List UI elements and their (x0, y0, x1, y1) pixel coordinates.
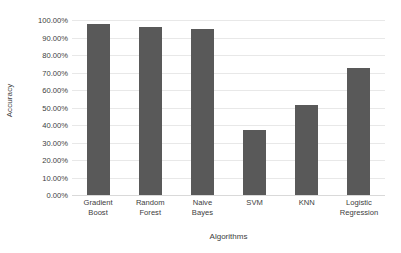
bar-chart: Accuracy 100.00%90.00%80.00%70.00%60.00%… (0, 0, 401, 253)
y-axis-tick-label: 0.00% (46, 191, 68, 200)
bar-slot (281, 20, 333, 195)
bar[interactable] (191, 29, 214, 195)
y-axis-tick-label: 70.00% (42, 68, 68, 77)
x-tick-slot: KNN (281, 198, 333, 230)
plot-area (72, 20, 385, 195)
x-tick-slot: SVM (229, 198, 281, 230)
bar-slot (176, 20, 228, 195)
x-tick-slot: Random Forest (124, 198, 176, 230)
x-axis-tick-label: Random Forest (126, 198, 174, 218)
gridline (72, 195, 385, 196)
x-axis-tick-label: Logistic Regression (335, 198, 383, 218)
x-axis-tick-labels: Gradient BoostRandom ForestNaive BayesSV… (72, 198, 385, 230)
y-axis-tick-label: 100.00% (38, 16, 68, 25)
bar-series (72, 20, 385, 195)
bar-slot (333, 20, 385, 195)
x-axis-tick-label: KNN (283, 198, 331, 208)
x-axis-tick-label: SVM (231, 198, 279, 208)
x-axis-title: Algorithms (72, 232, 385, 241)
bar-slot (72, 20, 124, 195)
x-axis-title-label: Algorithms (210, 232, 248, 241)
y-axis-tick-label: 40.00% (42, 121, 68, 130)
y-axis-tick-label: 90.00% (42, 33, 68, 42)
y-axis-tick-label: 20.00% (42, 156, 68, 165)
bar[interactable] (347, 68, 370, 195)
bar[interactable] (295, 105, 318, 195)
bar-slot (124, 20, 176, 195)
bar-slot (229, 20, 281, 195)
x-tick-slot: Gradient Boost (72, 198, 124, 230)
y-axis-tick-label: 80.00% (42, 51, 68, 60)
bar[interactable] (139, 27, 162, 195)
y-axis-title-label: Accuracy (6, 83, 15, 117)
x-tick-slot: Naive Bayes (176, 198, 228, 230)
bar[interactable] (87, 24, 110, 196)
y-axis-title: Accuracy (0, 0, 20, 200)
y-axis-tick-label: 60.00% (42, 86, 68, 95)
x-axis-tick-label: Gradient Boost (74, 198, 122, 218)
y-axis-tick-labels: 100.00%90.00%80.00%70.00%60.00%50.00%40.… (18, 20, 72, 195)
x-tick-slot: Logistic Regression (333, 198, 385, 230)
y-axis-tick-label: 10.00% (42, 173, 68, 182)
x-axis-tick-label: Naive Bayes (178, 198, 226, 218)
y-axis-tick-label: 50.00% (42, 103, 68, 112)
bar[interactable] (243, 130, 266, 195)
y-axis-tick-label: 30.00% (42, 138, 68, 147)
